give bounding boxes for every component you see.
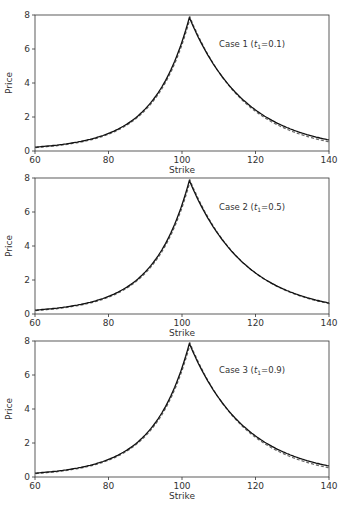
- x-axis-label: Strike: [169, 165, 195, 175]
- y-tick-label: 8: [24, 336, 30, 346]
- series-dashed: [36, 344, 330, 474]
- y-axis-label: Price: [4, 398, 14, 420]
- x-tick-label: 80: [103, 318, 115, 328]
- plot-frame: [35, 178, 329, 314]
- y-tick-label: 2: [24, 112, 30, 122]
- y-tick-label: 0: [24, 309, 30, 319]
- y-tick-label: 0: [24, 146, 30, 156]
- y-tick-label: 0: [24, 472, 30, 482]
- x-tick-label: 60: [29, 481, 41, 491]
- x-tick-label: 140: [320, 318, 337, 328]
- x-tick-label: 80: [103, 481, 115, 491]
- y-tick-label: 8: [24, 173, 30, 183]
- x-tick-label: 100: [173, 481, 190, 491]
- case-annotation: Case 2 (t1=0.5): [219, 202, 285, 213]
- x-tick-label: 80: [103, 155, 115, 165]
- panel-2: 608010012014002468StrikePriceCase 2 (t1=…: [4, 173, 338, 338]
- panel-3: 608010012014002468StrikePriceCase 3 (t1=…: [4, 336, 338, 501]
- y-tick-label: 6: [24, 207, 30, 217]
- y-axis-label: Price: [4, 72, 14, 94]
- y-tick-label: 4: [24, 241, 30, 251]
- y-tick-label: 6: [24, 44, 30, 54]
- y-tick-label: 8: [24, 10, 30, 20]
- figure: 608010012014002468StrikePriceCase 1 (t1=…: [0, 0, 348, 514]
- y-tick-label: 2: [24, 275, 30, 285]
- case-annotation: Case 1 (t1=0.1): [219, 39, 285, 50]
- x-tick-label: 140: [320, 155, 337, 165]
- x-tick-label: 100: [173, 318, 190, 328]
- y-tick-label: 2: [24, 438, 30, 448]
- x-tick-label: 120: [247, 481, 264, 491]
- plot-frame: [35, 15, 329, 151]
- y-tick-label: 4: [24, 78, 30, 88]
- x-tick-label: 60: [29, 318, 41, 328]
- x-axis-label: Strike: [169, 328, 195, 338]
- x-tick-label: 120: [247, 155, 264, 165]
- x-tick-label: 140: [320, 481, 337, 491]
- y-tick-label: 6: [24, 370, 30, 380]
- x-tick-label: 60: [29, 155, 41, 165]
- x-tick-label: 100: [173, 155, 190, 165]
- x-tick-label: 120: [247, 318, 264, 328]
- plot-frame: [35, 341, 329, 477]
- case-annotation: Case 3 (t1=0.9): [219, 365, 285, 376]
- panel-1: 608010012014002468StrikePriceCase 1 (t1=…: [4, 10, 338, 175]
- x-axis-label: Strike: [169, 491, 195, 501]
- y-tick-label: 4: [24, 404, 30, 414]
- series-solid: [35, 18, 329, 148]
- series-dashed: [36, 181, 330, 311]
- series-solid: [35, 344, 329, 474]
- y-axis-label: Price: [4, 235, 14, 257]
- series-dashed: [36, 18, 330, 148]
